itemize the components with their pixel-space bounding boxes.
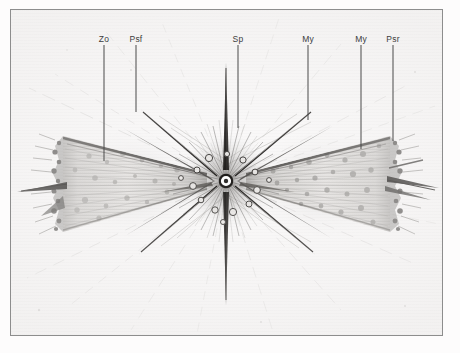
leader-line-my-upper: [308, 45, 309, 120]
plate-paper-field: Zo Psf Sp My My Psr: [10, 9, 443, 336]
scientific-plate: Zo Psf Sp My My Psr: [0, 0, 460, 353]
radiolarian-illustration: [11, 10, 442, 335]
label-psr: Psr: [386, 34, 399, 44]
leader-line-zo: [104, 45, 105, 161]
label-my-right: My: [355, 34, 367, 44]
label-sp: Sp: [233, 34, 244, 44]
leader-line-psr: [393, 45, 394, 141]
label-my-upper: My: [302, 34, 314, 44]
leader-line-psf: [136, 45, 137, 112]
label-zo: Zo: [99, 34, 109, 44]
leader-line-sp: [238, 45, 239, 128]
label-psf: Psf: [130, 34, 143, 44]
leader-line-my-right: [361, 45, 362, 149]
